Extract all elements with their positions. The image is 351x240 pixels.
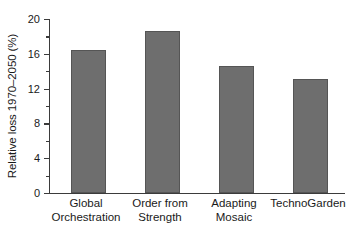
- y-tick-label: 8: [34, 115, 40, 131]
- bar: [71, 50, 106, 193]
- x-axis-category-labels: GlobalOrchestrationOrder fromStrengthAda…: [49, 196, 345, 238]
- x-category-line-1: Order from: [132, 197, 188, 209]
- bar-series: [49, 19, 345, 193]
- x-category-line-2: Mosaic: [191, 210, 277, 224]
- y-axis-title: Relative loss 1970–2050 (%): [4, 19, 20, 193]
- y-tick-label: 20: [28, 11, 40, 27]
- x-category-line-1: TechnoGarden: [270, 197, 345, 209]
- y-tick-mark: [44, 193, 49, 194]
- x-category-label: TechnoGarden: [265, 196, 351, 210]
- bar: [293, 79, 328, 193]
- y-tick-label: 0: [34, 185, 40, 201]
- y-tick-label: 4: [34, 150, 40, 166]
- x-category-line-1: Adapting: [211, 197, 256, 209]
- bar: [145, 31, 180, 193]
- y-tick-label: 12: [28, 81, 40, 97]
- y-tick-label: 16: [28, 46, 40, 62]
- bar: [219, 66, 254, 193]
- bar-chart-figure: Relative loss 1970–2050 (%) 048121620 Gl…: [0, 0, 351, 240]
- x-category-line-1: Global: [69, 197, 102, 209]
